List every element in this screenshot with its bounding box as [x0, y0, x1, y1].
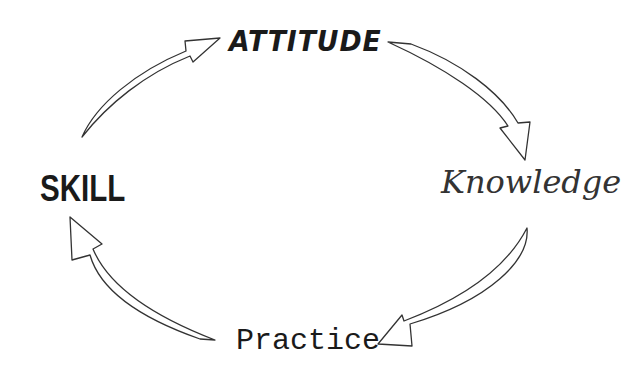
arrow-practice-to-skill-icon — [70, 217, 215, 340]
node-attitude: ATTITUDE — [229, 24, 382, 58]
node-practice: Practice — [236, 324, 380, 358]
node-skill: SKILL — [40, 168, 125, 210]
cycle-diagram: ATTITUDE Knowledge Practice SKILL — [0, 0, 631, 374]
arrow-knowledge-to-practice-icon — [378, 228, 527, 346]
arrow-skill-to-attitude-icon — [82, 38, 220, 137]
node-knowledge: Knowledge — [441, 163, 621, 201]
arrow-attitude-to-knowledge-icon — [388, 42, 530, 160]
